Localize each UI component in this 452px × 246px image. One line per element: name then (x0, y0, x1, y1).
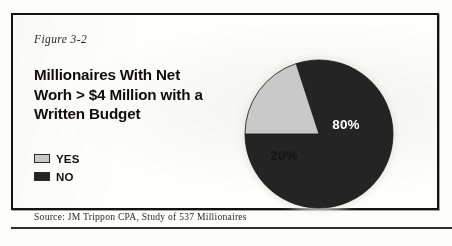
source-line: Source: JM Trippon CPA, Study of 537 Mil… (34, 211, 247, 222)
pie-label-yes: 20% (270, 148, 298, 163)
pie-chart: 80% 20% (239, 48, 399, 220)
page-divider-rule (11, 227, 452, 229)
figure-label: Figure 3-2 (34, 33, 87, 45)
page-canvas: Figure 3-2 Millionaires With Net Worh > … (0, 0, 452, 246)
legend-label-yes: YES (56, 153, 80, 165)
pie-chart-svg: 80% 20% (239, 48, 399, 220)
figure-frame: Figure 3-2 Millionaires With Net Worh > … (11, 13, 439, 210)
chart-title: Millionaires With Net Worh > $4 Million … (34, 65, 222, 124)
legend-label-no: NO (56, 171, 74, 183)
legend-item-yes: YES (34, 151, 80, 166)
pie-label-no: 80% (332, 117, 360, 132)
legend-swatch-yes (34, 154, 50, 163)
legend-swatch-no (34, 172, 50, 181)
chart-legend: YES NO (34, 151, 80, 187)
legend-item-no: NO (34, 169, 80, 184)
